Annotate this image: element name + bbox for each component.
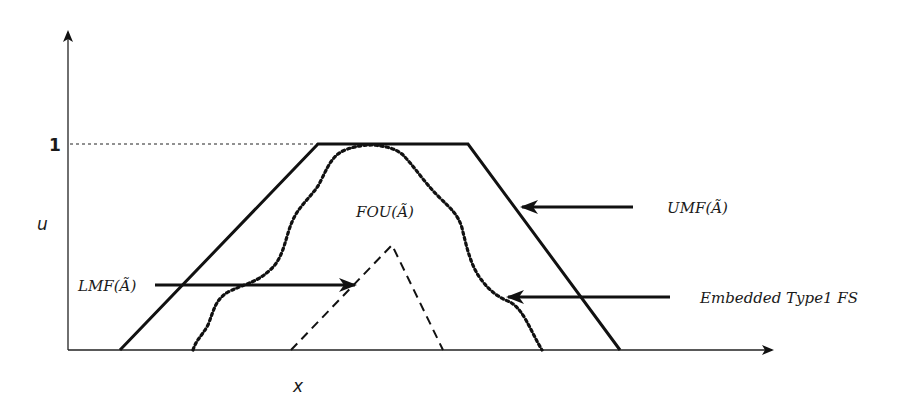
x-axis-label: x	[292, 376, 304, 396]
lmf-triangle	[291, 245, 443, 350]
fou-label: FOU(Ã)	[355, 203, 414, 221]
y-axis-label: u	[37, 214, 48, 234]
fuzzy-set-diagram: 1 u x FOU(Ã) UMF(Ã) LMF(Ã) Embedded Type…	[0, 0, 913, 413]
y-tick-1: 1	[49, 135, 61, 155]
umf-label: UMF(Ã)	[667, 199, 728, 217]
embedded-label: Embedded Type1 FS	[699, 289, 858, 307]
umf-trapezoid	[120, 144, 620, 350]
lmf-label: LMF(Ã)	[77, 277, 136, 295]
